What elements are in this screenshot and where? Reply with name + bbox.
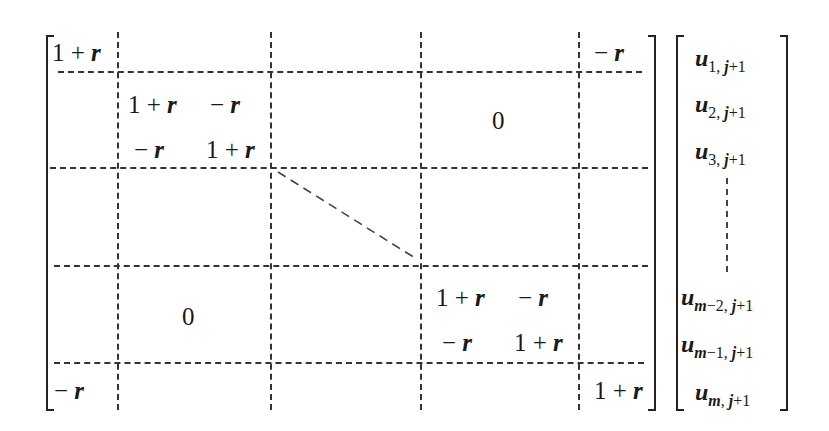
- vector-entry-m: um, j+1: [695, 380, 750, 409]
- block-upper-a11: 1 + r: [128, 92, 177, 117]
- vector-entry-m-2: um−2, j+1: [681, 285, 753, 314]
- block-upper-a22: 1 + r: [206, 137, 255, 162]
- block-lower-a12: − r: [518, 285, 548, 310]
- zero-upper-right: 0: [492, 108, 505, 133]
- block-upper-a21: − r: [134, 137, 164, 162]
- zero-lower-left: 0: [182, 304, 195, 329]
- entry-top-right: − r: [594, 40, 624, 65]
- block-lower-a11: 1 + r: [436, 285, 485, 310]
- block-lower-a21: − r: [442, 330, 472, 355]
- vector-entry-2: u2, j+1: [695, 92, 746, 121]
- entry-bottom-right: 1 + r: [594, 378, 643, 403]
- entry-top-left: 1 + r: [52, 40, 101, 65]
- block-lower-a22: 1 + r: [514, 330, 563, 355]
- vector-entry-1: u1, j+1: [695, 46, 746, 75]
- vector-entry-m-1: um−1, j+1: [681, 332, 753, 361]
- block-upper-a12: − r: [210, 92, 240, 117]
- entry-bottom-left: − r: [54, 378, 84, 403]
- vector-entry-3: u3, j+1: [695, 139, 746, 168]
